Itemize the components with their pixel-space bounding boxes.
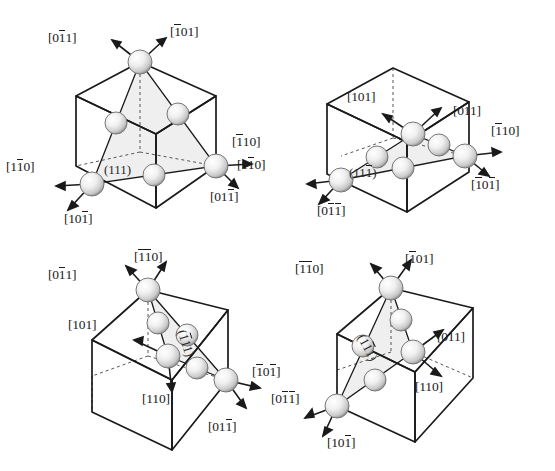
panel-3-direction-0: [011] bbox=[48, 268, 76, 282]
panel-2-direction-2: [110] bbox=[491, 124, 519, 138]
panel-1-direction-4: [110] bbox=[6, 160, 34, 174]
panel-1-direction-2: [110] bbox=[232, 135, 260, 149]
panel-3-direction-3: [110] bbox=[142, 392, 170, 406]
panel-4-direction-4: [011] bbox=[271, 392, 299, 406]
panel-1-direction-3: [011] bbox=[210, 190, 238, 204]
panel-1-plane-label: (111) bbox=[104, 163, 131, 176]
panel-3: [011] [110] [101] [110] [101] [011] (111… bbox=[30, 240, 290, 465]
panel-1-direction-1: [101] bbox=[170, 25, 198, 39]
panel-3-direction-2: [101] bbox=[68, 318, 96, 332]
panel-4-direction-0: [110] bbox=[295, 262, 323, 276]
panel-2-direction-1: [011] bbox=[453, 104, 481, 118]
panel-4-direction-1: [101] bbox=[405, 252, 433, 266]
panel-1-direction-0: [011] bbox=[48, 31, 76, 45]
panel-2-plane-label: (111) bbox=[349, 166, 377, 179]
panel-4-direction-5: [101] bbox=[327, 436, 355, 450]
panel-3-direction-4: [101] bbox=[252, 365, 280, 379]
panel-1-direction-5: [101] bbox=[64, 212, 92, 226]
panel-4: [110] [101] [011] [110] [011] [101] (111… bbox=[285, 240, 555, 471]
panel-1: [011] [101] [110] [011] [110] [101] (111… bbox=[0, 0, 280, 236]
panel-2-direction-4: [110] bbox=[237, 158, 265, 172]
panel-3-direction-5: [011] bbox=[208, 420, 236, 434]
fcc-slip-system-figure: [011] [101] [110] [011] [110] [101] (111… bbox=[0, 0, 555, 471]
panel-2-direction-5: [011] bbox=[317, 204, 345, 218]
panel-4-direction-3: [110] bbox=[415, 380, 443, 394]
panel-4-cell bbox=[285, 240, 555, 471]
panel-2-direction-0: [101] bbox=[347, 90, 375, 104]
panel-3-direction-1: [110] bbox=[134, 250, 162, 264]
panel-2: [101] [011] [110] [101] [110] [011] (111… bbox=[285, 52, 555, 236]
panel-2-direction-3: [101] bbox=[471, 178, 499, 192]
panel-4-direction-2: [011] bbox=[437, 330, 465, 344]
